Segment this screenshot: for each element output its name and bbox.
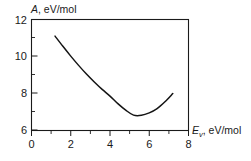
y-tick-label: 8 — [21, 87, 27, 99]
data-curve-series-0 — [55, 36, 173, 116]
y-tick-label: 6 — [21, 124, 27, 136]
chart-figure: 6 8 10 12 0 2 4 6 8 A, eV/mol Ev, eV/mol — [0, 0, 251, 161]
x-tick-label: 0 — [28, 138, 34, 150]
y-axis-label: A, eV/mol — [30, 3, 77, 15]
x-axis-tick-labels: 0 2 4 6 8 — [28, 138, 191, 150]
x-tick-label: 4 — [107, 138, 113, 150]
x-tick-label: 6 — [146, 138, 152, 150]
x-axis-major-ticks — [32, 131, 189, 137]
x-axis-label-units: , eV/mol — [203, 124, 242, 136]
x-tick-label: 8 — [185, 138, 191, 150]
y-tick-label: 10 — [15, 50, 27, 62]
y-tick-label: 12 — [15, 14, 27, 26]
x-axis-label: Ev, eV/mol — [192, 124, 241, 139]
y-axis-label-units: , eV/mol — [38, 3, 77, 15]
chart-canvas: 6 8 10 12 0 2 4 6 8 A, eV/mol Ev, eV/mol — [0, 0, 251, 161]
y-axis-tick-labels: 6 8 10 12 — [15, 14, 27, 137]
y-axis-label-symbol: A — [30, 3, 38, 15]
x-tick-label: 2 — [68, 138, 74, 150]
